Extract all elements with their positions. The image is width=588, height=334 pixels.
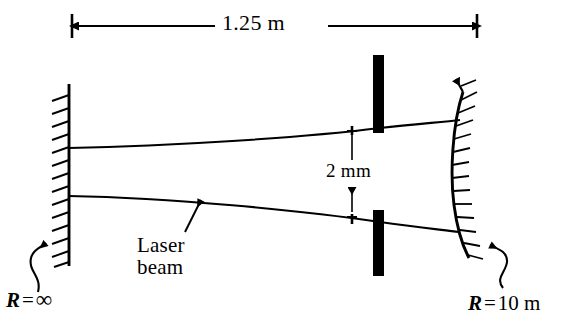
laser-beam-label-line1: Laser bbox=[137, 233, 185, 257]
flat-mirror-radius-label: R=∞ bbox=[6, 288, 52, 312]
aperture-stop-bottom bbox=[373, 210, 384, 276]
laser-beam-label: Laser beam bbox=[137, 234, 185, 278]
curved-mirror-radius-equals: = bbox=[482, 291, 498, 315]
flat-mirror-radius-value: ∞ bbox=[36, 287, 52, 312]
laser-cavity-diagram: 1.25 m 2 mm Laser beam R=∞ R=10 m bbox=[0, 0, 588, 334]
beam-envelope-lower-edge bbox=[69, 196, 459, 232]
cavity-length-label: 1.25 m bbox=[222, 11, 285, 34]
flat-mirror-curly-leader-arrow bbox=[31, 243, 46, 292]
curved-mirror-radius-label: R=10 m bbox=[468, 292, 540, 314]
aperture-stop-top bbox=[373, 55, 384, 133]
laser-beam-label-line2: beam bbox=[137, 256, 185, 278]
diagram-canvas bbox=[0, 0, 588, 334]
curved-mirror-curly-leader-arrow bbox=[490, 245, 507, 288]
beam-envelope-upper-edge bbox=[69, 120, 460, 148]
curved-mirror-radius-symbol: R bbox=[468, 291, 482, 315]
laser-beam-leader-arrow bbox=[185, 200, 201, 232]
aperture-size-label: 2 mm bbox=[326, 161, 371, 181]
flat-mirror-hatched-wall bbox=[52, 84, 69, 267]
beam-envelope bbox=[69, 120, 460, 232]
flat-mirror-radius-equals: = bbox=[20, 288, 36, 312]
curved-mirror-radius-value: 10 m bbox=[498, 291, 541, 315]
flat-mirror-radius-symbol: R bbox=[6, 288, 20, 312]
